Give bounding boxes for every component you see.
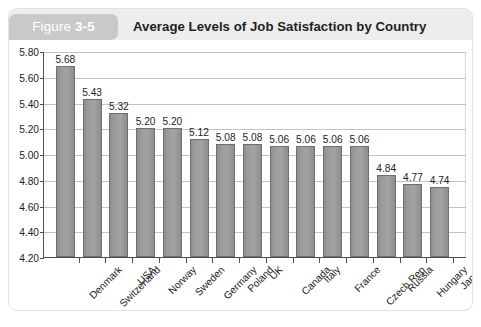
figure-card: Figure 3-5 Average Levels of Job Satisfa… [8, 8, 473, 311]
bar-value-label: 5.32 [109, 101, 129, 112]
bar-value-label: 5.20 [136, 116, 156, 127]
x-tick-mark [319, 258, 320, 263]
chart-body: 4.204.404.604.805.005.205.405.605.80 5.6… [9, 40, 473, 311]
x-tick-mark [346, 258, 347, 263]
bar-value-label: 4.74 [430, 175, 450, 186]
y-tick-mark [40, 104, 44, 105]
x-tick-mark [79, 258, 80, 263]
y-tick-label: 5.60 [9, 72, 39, 83]
bar-value-label: 4.77 [403, 172, 423, 183]
y-tick-mark [40, 258, 44, 259]
y-tick-label: 4.60 [9, 201, 39, 212]
y-tick-label: 5.20 [9, 124, 39, 135]
bar [403, 184, 422, 257]
x-tick-mark [159, 258, 160, 263]
figure-number-badge: Figure 3-5 [9, 14, 118, 40]
x-tick-mark [132, 258, 133, 263]
bar [377, 175, 396, 257]
figure-number-label: Figure 3-5 [9, 14, 118, 40]
bar-value-label: 5.68 [55, 54, 75, 65]
bar-value-label: 5.08 [243, 132, 263, 143]
y-tick-mark [40, 155, 44, 156]
x-tick-mark [426, 258, 427, 263]
bar-value-label: 5.43 [82, 87, 102, 98]
x-tick-mark [373, 258, 374, 263]
gridline [44, 104, 466, 105]
x-tick-label: France [352, 264, 382, 294]
x-tick-mark [212, 258, 213, 263]
y-tick-mark [40, 52, 44, 53]
x-axis-category-labels: DenmarkSwitzerlandUSANorwaySwedenGermany… [43, 264, 466, 311]
bar-value-label: 4.84 [376, 163, 396, 174]
x-tick-mark [105, 258, 106, 263]
figure-header: Figure 3-5 Average Levels of Job Satisfa… [9, 9, 473, 40]
bar [163, 128, 182, 257]
bar-value-label: 5.08 [216, 132, 236, 143]
figure-title: Average Levels of Job Satisfaction by Co… [133, 15, 426, 39]
bar [190, 139, 209, 257]
bar [270, 146, 289, 257]
y-tick-label: 4.80 [9, 175, 39, 186]
plot-area: 5.685.435.325.205.205.125.085.085.065.06… [43, 52, 466, 258]
figure-number-value: 3-5 [75, 19, 95, 34]
x-tick-mark [293, 258, 294, 263]
bar [350, 146, 369, 257]
y-tick-label: 5.40 [9, 98, 39, 109]
x-tick-label: Norway [166, 264, 198, 296]
gridline [44, 52, 466, 53]
x-tick-label: Denmark [87, 264, 124, 301]
bar-value-label: 5.12 [189, 127, 209, 138]
y-tick-mark [40, 78, 44, 79]
x-tick-mark [453, 258, 454, 263]
bar [109, 113, 128, 257]
bar-value-label: 5.06 [269, 134, 289, 145]
y-axis-tick-labels: 4.204.404.604.805.005.205.405.605.80 [9, 52, 39, 258]
gridline [44, 78, 466, 79]
y-tick-label: 4.40 [9, 227, 39, 238]
bar-value-label: 5.06 [323, 134, 343, 145]
bar [323, 146, 342, 257]
bar [430, 187, 449, 257]
y-tick-mark [40, 207, 44, 208]
bar-value-label: 5.20 [162, 116, 182, 127]
bar [216, 144, 235, 257]
x-tick-mark [266, 258, 267, 263]
bar [243, 144, 262, 257]
x-tick-mark [400, 258, 401, 263]
y-tick-label: 5.80 [9, 47, 39, 58]
x-tick-mark [186, 258, 187, 263]
bar [296, 146, 315, 257]
y-tick-mark [40, 232, 44, 233]
bar-value-label: 5.06 [296, 134, 316, 145]
y-tick-mark [40, 129, 44, 130]
x-tick-mark [239, 258, 240, 263]
gridline [44, 129, 466, 130]
figure-number-prefix: Figure [32, 19, 75, 34]
bar [136, 128, 155, 257]
y-tick-mark [40, 181, 44, 182]
y-tick-label: 4.20 [9, 253, 39, 264]
bar-value-label: 5.06 [350, 134, 370, 145]
y-tick-label: 5.00 [9, 150, 39, 161]
bar [56, 66, 75, 257]
bar [83, 99, 102, 257]
